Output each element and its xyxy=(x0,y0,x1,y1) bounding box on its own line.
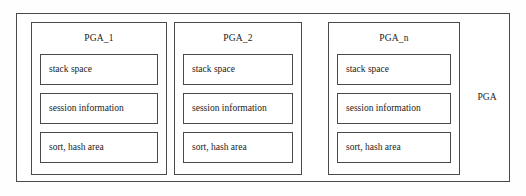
region-label: sort, hash area xyxy=(184,142,247,153)
pga-outer-label: PGA xyxy=(464,92,510,103)
region-box-session-information-2: session information xyxy=(183,93,293,124)
region-box-stack-space-n: stack space xyxy=(337,54,451,85)
region-label: stack space xyxy=(338,64,389,75)
region-box-session-information-1: session information xyxy=(40,93,158,124)
region-label: session information xyxy=(338,103,421,114)
region-label: sort, hash area xyxy=(338,142,401,153)
region-box-sort-hash-area-1: sort, hash area xyxy=(40,132,158,163)
pga-panel-title-n: PGA_n xyxy=(329,33,459,44)
region-list-1: stack space session information sort, ha… xyxy=(40,54,158,163)
region-box-session-information-n: session information xyxy=(337,93,451,124)
region-box-sort-hash-area-n: sort, hash area xyxy=(337,132,451,163)
region-list-n: stack space session information sort, ha… xyxy=(337,54,451,163)
pga-panel-title-2: PGA_2 xyxy=(175,33,301,44)
pga-panel-title-1: PGA_1 xyxy=(32,33,166,44)
region-list-2: stack space session information sort, ha… xyxy=(183,54,293,163)
pga-panel-pga-2: PGA_2 stack space session information so… xyxy=(174,22,302,175)
pga-panel-pga-n: PGA_n stack space session information so… xyxy=(328,22,460,175)
region-label: stack space xyxy=(184,64,235,75)
region-box-stack-space-1: stack space xyxy=(40,54,158,85)
pga-outer-frame: PGA_1 stack space session information so… xyxy=(16,13,510,182)
pga-panel-pga-1: PGA_1 stack space session information so… xyxy=(31,22,167,175)
region-box-stack-space-2: stack space xyxy=(183,54,293,85)
region-label: stack space xyxy=(41,64,92,75)
region-label: session information xyxy=(184,103,267,114)
diagram-canvas: PGA_1 stack space session information so… xyxy=(0,0,526,196)
region-box-sort-hash-area-2: sort, hash area xyxy=(183,132,293,163)
region-label: session information xyxy=(41,103,124,114)
region-label: sort, hash area xyxy=(41,142,104,153)
